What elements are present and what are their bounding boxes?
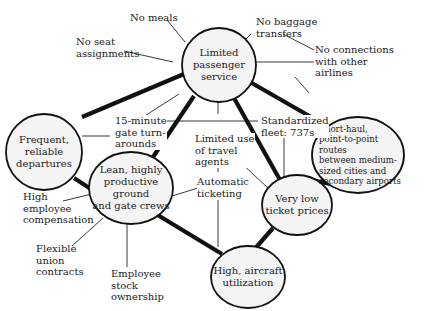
hub-label: Lean, highly productive ground and gate …	[89, 164, 173, 212]
link-crews-ticketing	[172, 188, 198, 196]
activity-flexible-union-contracts: Flexible union contracts	[36, 243, 84, 278]
activity-standardized-fleet: Standardized fleet: 737s	[261, 115, 329, 138]
hub-label: Limited passenger service	[193, 47, 245, 83]
activity-high-employee-compensation: High employee compensation	[23, 191, 94, 226]
hub-high-aircraft-utilization: High, aircraft utilization	[211, 246, 285, 308]
strong-service-departures	[82, 74, 184, 117]
hub-frequent-reliable-departures: Frequent, reliable departures	[6, 114, 82, 190]
hub-lean-crews: Lean, highly productive ground and gate …	[89, 152, 173, 224]
activity-automatic-ticketing: Automatic ticketing	[197, 176, 249, 199]
hub-label: Frequent, reliable departures	[16, 134, 72, 170]
activity-no-baggage-transfers: No baggage transfers	[256, 16, 317, 39]
hub-limited-passenger-service: Limited passenger service	[182, 28, 256, 102]
activity-limited-travel-agents: Limited use of travel agents	[195, 133, 255, 168]
activity-employee-stock-ownership: Employee stock ownership	[111, 268, 164, 303]
hub-very-low-ticket-prices: Very low ticket prices	[262, 175, 332, 235]
activity-no-meals: No meals	[130, 12, 178, 24]
activity-no-seat-assignments: No seat assignments	[76, 36, 139, 59]
link-connections-shorthaul	[295, 77, 309, 93]
hub-label: High, aircraft utilization	[213, 265, 282, 289]
activity-no-connections: No connections with other airlines	[315, 44, 394, 79]
activity-gate-turnarounds: 15-minute gate turn- arounds	[115, 115, 167, 150]
hub-label: Very low ticket prices	[265, 193, 328, 217]
